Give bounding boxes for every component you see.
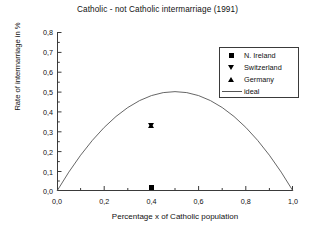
legend-label: N. Ireland (244, 51, 276, 60)
y-tick-label: 0,7 (23, 48, 53, 57)
y-tick-label: 0,5 (23, 88, 53, 97)
legend-label: Germany (244, 75, 274, 84)
x-tick-label: 0,6 (186, 197, 212, 206)
y-tick-label: 0,0 (23, 187, 53, 196)
line-key-icon (220, 85, 244, 97)
page-title: Catholic - not Catholic intermarriage (1… (0, 5, 315, 14)
legend-item-switzerland: Switzerland (220, 61, 300, 73)
x-tick-label: 0,2 (91, 197, 117, 206)
triangle-up-marker-icon (220, 73, 244, 85)
x-axis-label: Percentage x of Catholic population (57, 212, 293, 221)
y-tick-label: 0,1 (23, 168, 53, 177)
x-tick-label: 1,0 (280, 197, 306, 206)
y-tick-label: 0,6 (23, 68, 53, 77)
square-marker-icon (220, 49, 244, 61)
legend: N. Ireland Switzerland Germany ideal (219, 47, 299, 98)
triangle-down-marker-icon (220, 61, 244, 73)
ideal-curve (57, 92, 293, 191)
legend-label: Switzerland (244, 63, 282, 72)
y-tick-label: 0,8 (23, 28, 53, 37)
y-tick-label: 0,4 (23, 108, 53, 117)
y-axis-label: Rate of intermarriage in % (13, 12, 22, 122)
x-tick-label: 0,0 (44, 197, 70, 206)
legend-item-ideal: ideal (220, 85, 300, 97)
y-axis-ticks (58, 33, 62, 191)
y-tick-label: 0,3 (23, 128, 53, 137)
data-point-n-ireland (149, 185, 154, 190)
legend-item-n-ireland: N. Ireland (220, 49, 300, 61)
legend-item-germany: Germany (220, 73, 300, 85)
data-point-germany (148, 123, 154, 128)
y-tick-label: 0,2 (23, 148, 53, 157)
x-tick-label: 0,4 (138, 197, 164, 206)
legend-label: ideal (244, 87, 259, 96)
chart-figure: Catholic - not Catholic intermarriage (1… (0, 0, 315, 229)
x-tick-label: 0,8 (233, 197, 259, 206)
